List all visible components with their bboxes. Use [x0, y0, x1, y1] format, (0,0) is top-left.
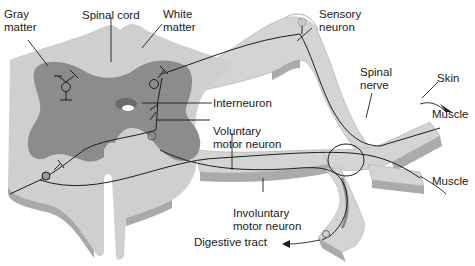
- label-spinal-nerve: Spinal nerve: [360, 66, 392, 92]
- label-interneuron: Interneuron: [213, 97, 272, 110]
- label-skin: Skin: [437, 72, 459, 85]
- label-muscle-upper: Muscle: [432, 108, 468, 121]
- label-sensory-neuron: Sensory neuron: [319, 8, 361, 34]
- label-gray-matter: Gray matter: [4, 8, 37, 34]
- spinal-cord: [8, 24, 232, 260]
- label-digestive-tract: Digestive tract: [194, 236, 267, 249]
- label-involuntary-motor-neuron: Involuntary motor neuron: [233, 207, 301, 233]
- label-voluntary-motor-neuron: Voluntary motor neuron: [213, 125, 281, 151]
- label-spinal-cord: Spinal cord: [82, 9, 140, 22]
- spinal-cord-diagram: Gray matter Spinal cord White matter Sen…: [0, 0, 475, 266]
- label-white-matter: White matter: [163, 8, 196, 34]
- label-muscle-lower: Muscle: [432, 175, 468, 188]
